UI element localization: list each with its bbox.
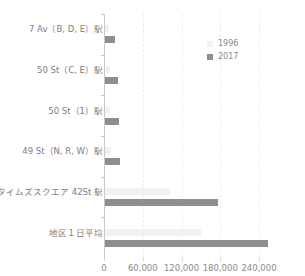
legend-label-2017: 2017: [218, 52, 238, 61]
legend-item-1996: 1996: [207, 37, 238, 50]
bar-chart: 7 Av（B, D, E）駅50 St（C, E）駅50 St（1）駅49 St…: [0, 0, 305, 276]
legend-item-2017: 2017: [207, 50, 238, 63]
gridline: [182, 14, 183, 258]
category-label: 49 St（N, R, W）駅: [22, 144, 103, 156]
gridline: [259, 14, 260, 258]
bar-2017: [105, 36, 115, 43]
x-tick-mark: [104, 258, 105, 261]
x-tick-mark: [220, 258, 221, 261]
category-label: 7 Av（B, D, E）駅: [29, 22, 103, 34]
bar-2017: [105, 77, 118, 84]
category-label: タイムズスクエア 42St 駅: [0, 185, 103, 197]
category-label: 地区１日平均: [49, 226, 103, 238]
category-label: 50 St（1）駅: [48, 104, 103, 116]
y-tick-mark: [101, 55, 104, 56]
x-tick-label: 120,000: [164, 263, 199, 273]
category-label: 50 St（C, E）駅: [37, 63, 103, 75]
legend-swatch-2017: [207, 54, 213, 60]
bar-1996: [105, 107, 110, 114]
x-tick-label: 0: [101, 263, 106, 273]
bar-1996: [105, 25, 109, 32]
bar-1996: [105, 66, 110, 73]
y-tick-mark: [101, 217, 104, 218]
gridline: [143, 14, 144, 258]
y-tick-mark: [101, 95, 104, 96]
x-tick-label: 180,000: [203, 263, 238, 273]
x-tick-mark: [182, 258, 183, 261]
bar-1996: [105, 188, 170, 195]
y-tick-mark: [101, 14, 104, 15]
bar-1996: [105, 229, 201, 236]
bar-2017: [105, 240, 268, 247]
legend-label-1996: 1996: [218, 39, 238, 48]
x-tick-mark: [259, 258, 260, 261]
x-tick-label: 60,000: [128, 263, 158, 273]
x-tick-label: 240,000: [241, 263, 276, 273]
y-axis: [104, 14, 105, 258]
x-tick-mark: [143, 258, 144, 261]
y-tick-mark: [101, 177, 104, 178]
y-tick-mark: [101, 136, 104, 137]
bar-2017: [105, 199, 218, 206]
legend-swatch-1996: [207, 41, 213, 47]
bar-1996: [105, 147, 111, 154]
bar-2017: [105, 118, 119, 125]
bar-2017: [105, 158, 120, 165]
legend: 1996 2017: [207, 37, 238, 63]
